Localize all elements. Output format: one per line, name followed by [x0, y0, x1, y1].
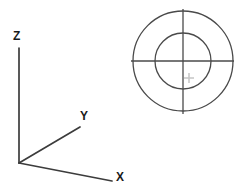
cad-viewport[interactable]: Z Y X [0, 0, 246, 191]
ucs-axis-tripod [19, 48, 112, 181]
x-axis-label: X [116, 171, 124, 183]
z-axis-label: Z [13, 30, 20, 42]
y-axis-label: Y [80, 110, 88, 122]
crosshair-pickbox-icon [184, 73, 194, 83]
x-axis-line [19, 163, 112, 181]
y-axis-line [19, 127, 80, 163]
cad-drawing-canvas[interactable] [0, 0, 246, 191]
concentric-circles-group[interactable] [131, 9, 234, 114]
